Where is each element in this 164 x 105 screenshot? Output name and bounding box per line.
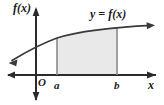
y-axis-label: f(x)	[13, 2, 31, 14]
y-axis-arrow-up	[33, 7, 40, 16]
integral-area-figure: f(x) y = f(x) O a b x	[0, 0, 164, 105]
x-axis-label: x	[148, 79, 154, 91]
figure-canvas	[0, 0, 164, 105]
origin-label: O	[38, 77, 46, 88]
x-axis-arrow-left	[7, 72, 15, 79]
curve-arrow-right	[147, 22, 156, 29]
curve-equation-label: y = f(x)	[90, 8, 126, 20]
shaded-area-region	[57, 27, 117, 75]
y-axis-arrow-down	[33, 92, 40, 101]
lower-limit-label: a	[54, 80, 60, 91]
upper-limit-label: b	[114, 80, 120, 91]
